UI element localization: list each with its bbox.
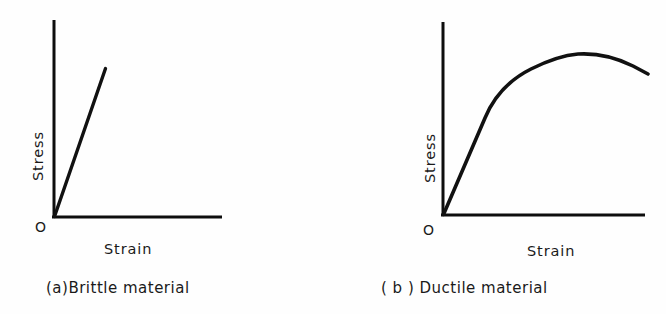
panel-caption-brittle: (a)Brittle material (46, 279, 190, 297)
y-axis-label: Stress (30, 131, 46, 181)
ductile-stress-strain-curve (444, 54, 649, 215)
panel-caption-ductile: ( b ) Ductile material (381, 279, 548, 297)
brittle-plot (0, 0, 333, 270)
origin-label: O (35, 219, 46, 235)
x-axis-label: Strain (104, 241, 152, 257)
origin-label: O (423, 222, 434, 238)
ductile-plot (333, 0, 666, 270)
y-axis-label: Stress (422, 133, 438, 183)
panel-brittle-material: Stress Strain O (a)Brittle material (0, 0, 333, 314)
brittle-stress-strain-line (55, 69, 106, 217)
x-axis-label: Strain (527, 243, 575, 259)
panel-ductile-material: Stress Strain O ( b ) Ductile material (333, 0, 666, 314)
stress-strain-figure: Stress Strain O (a)Brittle material Stre… (0, 0, 666, 314)
